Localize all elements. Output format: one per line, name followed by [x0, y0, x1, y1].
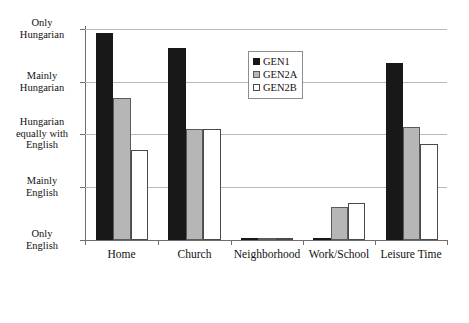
- bar-church-gen1: [168, 48, 185, 241]
- x-label-home: Home: [85, 248, 158, 261]
- bar-church-gen2b: [203, 129, 220, 240]
- y-tick-line: English: [6, 187, 78, 199]
- y-tick-label-only-hungarian: Only Hungarian: [6, 17, 78, 40]
- legend-swatch-icon: [253, 84, 260, 91]
- legend-swatch-icon: [253, 71, 260, 78]
- legend-item-gen2a: GEN2A: [253, 68, 298, 81]
- x-axis-tick: [158, 240, 159, 245]
- legend-label: GEN2B: [263, 81, 297, 94]
- y-tick-line: Mainly: [6, 175, 78, 187]
- x-label-church: Church: [158, 248, 231, 261]
- y-tick-label-mainly-hungarian: Mainly Hungarian: [6, 70, 78, 93]
- y-tick-label-only-english: Only English: [6, 228, 78, 251]
- y-tick-line: Only: [6, 17, 78, 29]
- legend-item-gen2b: GEN2B: [253, 81, 298, 94]
- y-tick-line: English: [6, 139, 78, 151]
- x-label-work-school: Work/School: [303, 248, 375, 261]
- bar-church-gen2a: [186, 129, 203, 240]
- legend-swatch-icon: [253, 58, 260, 65]
- legend: GEN1 GEN2A GEN2B: [248, 51, 303, 99]
- bar-work-school-gen1: [313, 238, 330, 240]
- bar-home-gen2a: [113, 98, 130, 240]
- x-axis-tick: [85, 240, 86, 245]
- y-axis-labels: Only Hungarian Mainly Hungarian Hungaria…: [0, 0, 78, 323]
- bar-home-gen1: [96, 33, 113, 240]
- bar-work-school-gen2b: [348, 203, 365, 240]
- legend-label: GEN1: [263, 55, 290, 68]
- bar-leisure-time-gen2a: [403, 127, 420, 240]
- y-tick-line: Mainly: [6, 70, 78, 82]
- x-label-leisure-time: Leisure Time: [375, 248, 447, 261]
- x-axis-line: [85, 240, 447, 241]
- y-tick-line: equally with: [6, 128, 78, 140]
- bar-leisure-time-gen1: [386, 63, 403, 240]
- y-tick-label-mainly-english: Mainly English: [6, 175, 78, 198]
- x-axis-tick: [447, 240, 448, 245]
- y-tick-line: Hungarian: [6, 82, 78, 94]
- x-axis-tick: [375, 240, 376, 245]
- y-tick-line: Only: [6, 228, 78, 240]
- y-tick-line: English: [6, 240, 78, 252]
- x-label-neighborhood: Neighborhood: [231, 248, 303, 261]
- y-tick-label-hungarian-equally-with-english: Hungarian equally with English: [6, 116, 78, 151]
- bar-neighborhood-gen2b: [276, 238, 293, 240]
- bar-leisure-time-gen2b: [420, 144, 437, 241]
- bar-neighborhood-gen1: [241, 238, 258, 240]
- bar-work-school-gen2a: [331, 207, 348, 240]
- bar-chart: Only Hungarian Mainly Hungarian Hungaria…: [0, 0, 469, 323]
- bar-home-gen2b: [131, 150, 148, 240]
- x-axis-tick: [303, 240, 304, 245]
- legend-item-gen1: GEN1: [253, 55, 298, 68]
- legend-label: GEN2A: [263, 68, 297, 81]
- y-tick-line: Hungarian: [6, 29, 78, 41]
- y-tick-line: Hungarian: [6, 116, 78, 128]
- bar-neighborhood-gen2a: [258, 238, 275, 240]
- x-axis-tick: [231, 240, 232, 245]
